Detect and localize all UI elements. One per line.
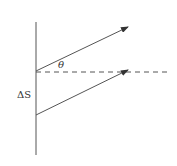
separation-label-delta-s: ΔS [17, 89, 31, 100]
ray-diagram: θ ΔS [0, 0, 177, 166]
upper-ray-arrow [36, 27, 128, 71]
diagram-canvas: θ ΔS [0, 0, 177, 166]
angle-label-theta: θ [58, 59, 64, 70]
lower-ray-arrow [36, 70, 128, 115]
